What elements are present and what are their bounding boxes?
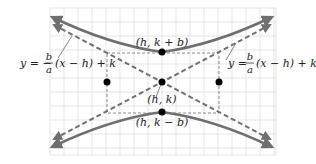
eq-left-rhs: (x − h) + k <box>55 57 116 70</box>
right-covertex-point <box>216 79 223 86</box>
top-vertex-point <box>159 49 166 56</box>
left-covertex-point <box>104 79 111 86</box>
center-point <box>159 79 166 86</box>
eq-right-num: b <box>247 51 253 62</box>
eq-left-den: a <box>46 64 52 75</box>
asymptote-negative-equation: y = − b a (x − h) + k <box>19 51 116 75</box>
eq-right-lhs: y = <box>227 57 247 70</box>
asymptote-positive-equation: y = b a (x − h) + k <box>227 51 316 75</box>
bottom-vertex-label: (h, k − b) <box>136 116 189 129</box>
center-label: (h, k) <box>147 93 176 106</box>
top-vertex-label: (h, k + b) <box>136 36 189 49</box>
eq-right-rhs: (x − h) + k <box>256 57 316 70</box>
hyperbola-diagram: (h, k + b) (h, k) (h, k − b) y = − b a (… <box>0 0 316 164</box>
eq-right-den: a <box>247 64 253 75</box>
bottom-vertex-point <box>159 109 166 116</box>
leader-line-left <box>58 36 72 58</box>
eq-left-num: b <box>46 51 52 62</box>
